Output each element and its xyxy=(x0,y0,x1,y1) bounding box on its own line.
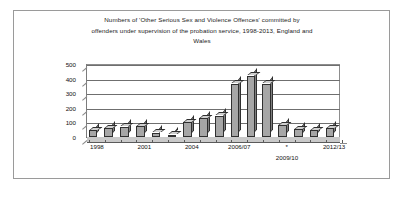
bar-front-face xyxy=(247,76,256,137)
x-tick-label: 2012/13 xyxy=(314,143,354,150)
figure-border: Numbers of 'Other Serious Sex and Violen… xyxy=(13,10,390,179)
x-axis-tick-mark xyxy=(168,140,169,143)
bar[interactable] xyxy=(324,64,340,143)
x-axis-tick-mark xyxy=(279,140,280,143)
bar-top-face xyxy=(247,72,260,75)
bar-top-face xyxy=(104,125,117,128)
x-axis-tick-mark xyxy=(121,140,122,143)
bar[interactable] xyxy=(150,64,166,143)
chart-title-line-2: offenders under supervision of the proba… xyxy=(26,26,378,37)
x-axis-tick-mark xyxy=(247,140,248,143)
bar-front-face xyxy=(310,130,319,137)
x-axis-tick-mark xyxy=(326,140,327,143)
x-axis-tick-mark xyxy=(89,140,90,143)
bar-front-face xyxy=(231,84,240,137)
bar[interactable] xyxy=(293,64,309,143)
chart-title-line-1: Numbers of 'Other Serious Sex and Violen… xyxy=(26,15,378,26)
bar[interactable] xyxy=(182,64,198,143)
bar-top-face xyxy=(278,122,291,125)
bar-front-face xyxy=(152,133,161,137)
x-axis-tick-mark xyxy=(184,140,185,143)
x-axis-tick-labels: 1998200120042006/07*2012/13 xyxy=(86,143,346,153)
bar-top-face xyxy=(183,119,196,122)
y-tick-label: 100 xyxy=(50,119,76,126)
bar-front-face xyxy=(104,128,113,137)
bar-top-face xyxy=(168,131,181,134)
bar[interactable] xyxy=(119,64,135,143)
chart-title: Numbers of 'Other Serious Sex and Violen… xyxy=(26,15,378,47)
bar-front-face xyxy=(326,128,335,137)
x-tick-label: 1998 xyxy=(77,143,117,150)
bar[interactable] xyxy=(245,64,261,143)
y-tick-label: 0 xyxy=(50,134,76,141)
x-axis-tick-mark xyxy=(342,140,343,143)
y-tick-label: 500 xyxy=(50,61,76,68)
x-axis-tick-mark xyxy=(136,140,137,143)
bar-top-face xyxy=(294,126,307,129)
bar[interactable] xyxy=(103,64,119,143)
bar-front-face xyxy=(199,118,208,137)
x-tick-label: 2001 xyxy=(124,143,164,150)
x-axis-tick-mark xyxy=(231,140,232,143)
bar[interactable] xyxy=(229,64,245,143)
plot-area xyxy=(86,64,340,138)
bar-top-face xyxy=(310,127,323,130)
x-tick-label: 2006/07 xyxy=(219,143,259,150)
bar[interactable] xyxy=(214,64,230,143)
bar[interactable] xyxy=(261,64,277,143)
x-axis-tick-mark xyxy=(263,140,264,143)
bar-front-face xyxy=(183,122,192,137)
x-axis-tick-mark xyxy=(200,140,201,143)
chart-title-line-3: Wales xyxy=(26,36,378,47)
x-axis-tick-mark xyxy=(105,140,106,143)
y-axis-tick-labels: 0100200300400500 xyxy=(50,61,76,137)
bar-top-face xyxy=(215,112,228,115)
bar[interactable] xyxy=(198,64,214,143)
bar[interactable] xyxy=(134,64,150,143)
y-tick-label: 400 xyxy=(50,75,76,82)
chart-canvas: Numbers of 'Other Serious Sex and Violen… xyxy=(14,11,391,180)
bar[interactable] xyxy=(166,64,182,143)
bar-front-face xyxy=(89,130,98,137)
bar-front-face xyxy=(136,126,145,137)
bar-top-face xyxy=(262,80,275,83)
bar-front-face xyxy=(120,127,129,138)
x-axis-tick-mark xyxy=(295,140,296,143)
bar-top-face xyxy=(89,127,102,130)
bar-top-face xyxy=(152,129,165,132)
x-axis-tick-mark xyxy=(310,140,311,143)
bar-top-face xyxy=(326,125,339,128)
bar-front-face xyxy=(168,135,177,137)
bar-front-face xyxy=(215,116,224,137)
bar-front-face xyxy=(294,129,303,137)
bar[interactable] xyxy=(277,64,293,143)
bar-top-face xyxy=(231,80,244,83)
bar[interactable] xyxy=(308,64,324,143)
bar-front-face xyxy=(278,125,287,137)
bar-series xyxy=(87,64,340,143)
bar-front-face xyxy=(262,84,271,137)
y-tick-label: 300 xyxy=(50,90,76,97)
x-axis-tick-mark xyxy=(152,140,153,143)
bar-top-face xyxy=(199,115,212,118)
x-tick-label: 2004 xyxy=(172,143,212,150)
x-axis-annotation: 2009/10 xyxy=(257,154,317,161)
x-axis-tick-mark xyxy=(216,140,217,143)
y-tick-label: 200 xyxy=(50,104,76,111)
x-tick-label: * xyxy=(267,143,307,150)
bar-top-face xyxy=(136,123,149,126)
bar-top-face xyxy=(120,123,133,126)
bar[interactable] xyxy=(87,64,103,143)
